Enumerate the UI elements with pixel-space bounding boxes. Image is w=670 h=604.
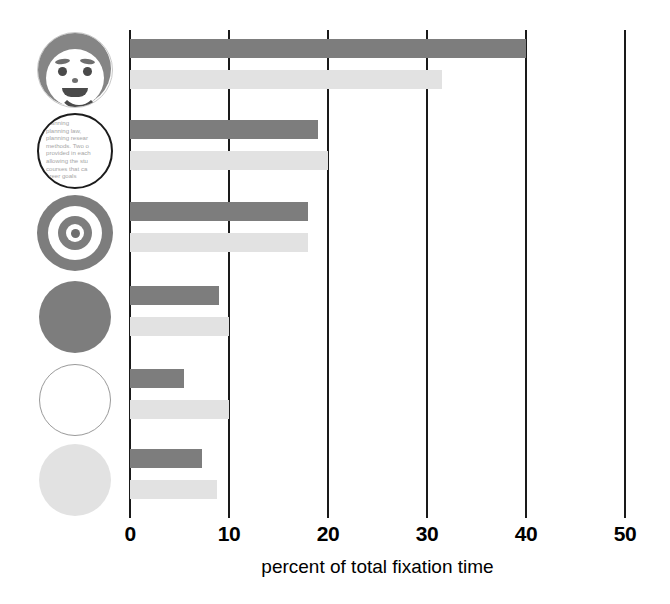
bar-light-empty-circle — [130, 400, 229, 419]
category-icon-face — [28, 30, 122, 110]
gridline-20 — [327, 30, 329, 518]
xtick-label-40: 40 — [496, 522, 556, 546]
bar-dark-solid-gray-circle — [130, 286, 219, 305]
gridline-30 — [426, 30, 428, 518]
category-icon-text-circle: planning planning law, planning resear m… — [28, 111, 122, 191]
text-circle-line: planning resear — [46, 134, 113, 142]
text-circle-line: courses that ca — [46, 165, 113, 173]
face-eye-left — [58, 67, 67, 76]
text-circle-line: planning — [46, 119, 113, 127]
text-circle-lines: planning planning law, planning resear m… — [46, 119, 113, 180]
gridline-0 — [129, 30, 131, 518]
x-axis-title: percent of total fixation time — [130, 556, 625, 578]
bar-light-solid-gray-circle — [130, 317, 229, 336]
gridline-40 — [525, 30, 527, 518]
text-circle-line: planning law, — [46, 127, 113, 135]
fixation-time-bar-chart: planning planning law, planning resear m… — [0, 0, 670, 604]
text-circle-icon: planning planning law, planning resear m… — [37, 113, 113, 189]
xtick-label-20: 20 — [298, 522, 358, 546]
empty-circle-icon — [39, 364, 111, 436]
xtick-label-50: 50 — [595, 522, 655, 546]
text-circle-line: areer goals — [46, 172, 113, 180]
xtick-label-0: 0 — [100, 522, 160, 546]
bar-dark-text-circle — [130, 120, 318, 139]
bullseye-icon — [37, 195, 113, 271]
bar-light-text-circle — [130, 151, 328, 170]
bar-dark-light-gray-circle — [130, 449, 202, 468]
bar-light-bullseye — [130, 233, 308, 252]
bar-light-light-gray-circle — [130, 480, 217, 499]
text-circle-line: provided in each — [46, 149, 113, 157]
bullseye-center — [71, 229, 80, 238]
category-icon-solid-gray-circle — [28, 277, 122, 357]
bar-dark-face — [130, 39, 526, 58]
category-icon-bullseye — [28, 193, 122, 273]
face-eye-right — [83, 67, 92, 76]
category-icon-light-gray-circle — [28, 440, 122, 520]
gridline-50 — [624, 30, 626, 518]
face-icon — [37, 32, 113, 108]
gridline-10 — [228, 30, 230, 518]
bar-dark-empty-circle — [130, 369, 184, 388]
bar-dark-bullseye — [130, 202, 308, 221]
category-icon-empty-circle — [28, 360, 122, 440]
text-circle-line: allowing the stu — [46, 157, 113, 165]
xtick-label-30: 30 — [397, 522, 457, 546]
text-circle-line: methods. Two o — [46, 142, 113, 150]
light-gray-circle-icon — [39, 444, 111, 516]
plot-area: planning planning law, planning resear m… — [0, 0, 670, 604]
bar-light-face — [130, 70, 442, 89]
xtick-label-10: 10 — [199, 522, 259, 546]
solid-gray-circle-icon — [39, 281, 111, 353]
